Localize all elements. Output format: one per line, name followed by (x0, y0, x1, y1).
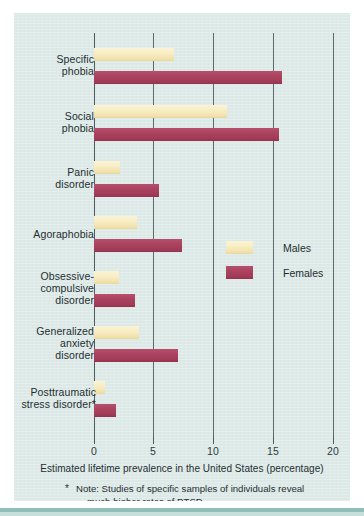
legend-item-males: Males (226, 241, 311, 254)
bar-fill (94, 184, 159, 197)
label-line: Obsessive- (40, 270, 94, 282)
footnote-line-2: much higher rates of PTSD. (76, 496, 338, 502)
footnote: * Note: Studies of specific samples of i… (76, 483, 338, 501)
legend-label-males: Males (283, 242, 311, 254)
label-line: anxiety (60, 337, 94, 349)
bar-males-specific-phobia (94, 48, 174, 61)
bar-fill (94, 105, 227, 118)
label-line: disorder (55, 349, 94, 361)
bar-fill (94, 271, 119, 284)
tick-label-5: 5 (133, 445, 173, 457)
category-label-social-phobia: Social phobia (22, 110, 94, 134)
category-label-ocd: Obsessive- compulsive disorder (14, 270, 94, 307)
tick-mark-0 (94, 437, 95, 444)
bar-males-social-phobia (94, 105, 227, 118)
bar-fill (94, 239, 182, 252)
label-line: Specific (56, 53, 94, 65)
bar-males-gad (94, 326, 139, 339)
bar-fill (94, 161, 120, 174)
bar-fill (94, 71, 282, 84)
label-line: stress disorder* (21, 398, 96, 410)
gridline-20 (333, 33, 334, 437)
bar-females-panic-disorder (94, 184, 159, 197)
gridline-0 (94, 33, 95, 437)
category-label-agoraphobia: Agoraphobia (14, 228, 94, 240)
gridline-5 (153, 33, 154, 437)
legend-item-females: Females (226, 266, 323, 279)
tick-mark-20 (333, 437, 334, 444)
bar-males-ocd (94, 271, 119, 284)
bar-fill (94, 326, 139, 339)
tick-label-10: 10 (193, 445, 233, 457)
label-line: disorder (55, 178, 94, 190)
legend-swatch-males (226, 241, 253, 254)
gridline-15 (273, 33, 274, 437)
legend-swatch-shadow (229, 269, 256, 282)
legend-label-females: Females (283, 267, 323, 279)
chart-panel: Specific phobia Social phobia (14, 13, 350, 501)
axis-title: Estimated lifetime prevalence in the Uni… (14, 463, 350, 474)
tick-label-20: 20 (313, 445, 350, 457)
gridline-10 (213, 33, 214, 437)
category-label-specific-phobia: Specific phobia (22, 53, 94, 77)
label-line: Social (65, 110, 94, 122)
category-label-ptsd: Posttraumatic stress disorder* (14, 386, 96, 410)
bar-males-agoraphobia (94, 216, 137, 229)
bar-females-ptsd (94, 404, 116, 417)
bar-fill (94, 48, 174, 61)
bar-fill (94, 404, 116, 417)
legend-swatch-shadow (229, 244, 256, 257)
bar-fill (94, 349, 178, 362)
figure-page: Specific phobia Social phobia (0, 0, 364, 516)
bar-fill (94, 294, 135, 307)
label-line: Panic (67, 166, 94, 178)
footnote-star: * (65, 483, 69, 496)
bar-males-panic-disorder (94, 161, 120, 174)
label-line: compulsive (40, 282, 94, 294)
bar-fill (94, 216, 137, 229)
tick-label-15: 15 (253, 445, 293, 457)
bar-females-social-phobia (94, 128, 279, 141)
bar-females-gad (94, 349, 178, 362)
label-line: Generalized (36, 325, 94, 337)
label-line: Posttraumatic (31, 386, 97, 398)
tick-label-0: 0 (74, 445, 114, 457)
label-line: disorder (55, 294, 94, 306)
bottom-rule-secondary (0, 512, 364, 516)
bar-fill (94, 128, 279, 141)
tick-mark-5 (153, 437, 154, 444)
label-line: phobia (62, 122, 94, 134)
bar-females-agoraphobia (94, 239, 182, 252)
tick-mark-15 (273, 437, 274, 444)
plot-area: Specific phobia Social phobia (14, 13, 350, 501)
label-line: phobia (62, 65, 94, 77)
legend-swatch-females (226, 266, 253, 279)
bar-females-ocd (94, 294, 135, 307)
category-label-gad: Generalized anxiety disorder (14, 325, 94, 362)
footnote-line-1: Note: Studies of specific samples of ind… (76, 483, 304, 494)
label-line: Agoraphobia (33, 228, 94, 240)
bar-females-specific-phobia (94, 71, 282, 84)
tick-mark-10 (213, 437, 214, 444)
category-label-panic-disorder: Panic disorder (20, 166, 94, 190)
